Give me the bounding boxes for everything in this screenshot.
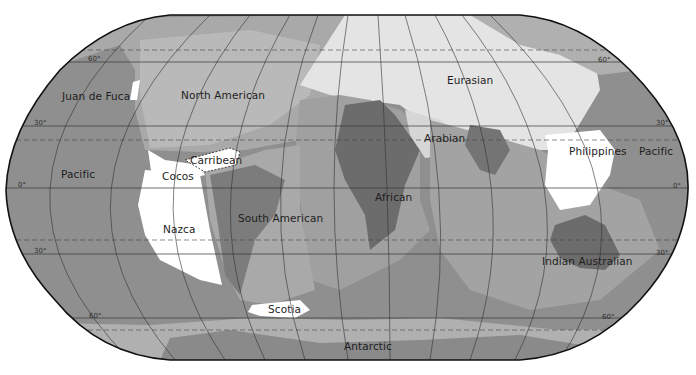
label-antarctic: Antarctic <box>344 341 392 352</box>
lat-label-left-0: 0° <box>18 182 26 189</box>
lat-label-right-30n: 30° <box>656 120 668 127</box>
lat-label-right-60n: 60° <box>598 57 610 64</box>
label-eurasian: Eurasian <box>447 75 493 86</box>
label-indian-australian: Indian Australian <box>542 256 633 267</box>
label-arabian: Arabian <box>424 133 465 144</box>
label-juan-de-fuca: Juan de Fuca <box>62 91 130 102</box>
label-carribean: Carribean <box>190 155 242 166</box>
label-nazca: Nazca <box>163 224 196 235</box>
label-cocos: Cocos <box>162 171 194 182</box>
lat-label-right-0: 0° <box>673 183 681 190</box>
lat-label-left-30s: 30° <box>34 248 46 255</box>
label-pacific-east: Pacific <box>639 146 673 157</box>
lat-label-left-60n: 60° <box>88 56 100 63</box>
label-south-american: South American <box>238 213 323 224</box>
label-north-american: North American <box>181 90 265 101</box>
lat-label-left-30n: 30° <box>34 120 46 127</box>
lat-label-right-60s: 60° <box>602 314 614 321</box>
lat-label-left-60s: 60° <box>89 313 101 320</box>
label-pacific-west: Pacific <box>61 169 95 180</box>
lat-label-right-30s: 30° <box>656 250 668 257</box>
label-african: African <box>375 192 412 203</box>
map-canvas <box>0 0 696 375</box>
label-scotia: Scotia <box>268 304 301 315</box>
tectonic-plate-map: Juan de Fuca North American Eurasian Ara… <box>0 0 696 375</box>
label-philippines: Philippines <box>569 146 627 157</box>
